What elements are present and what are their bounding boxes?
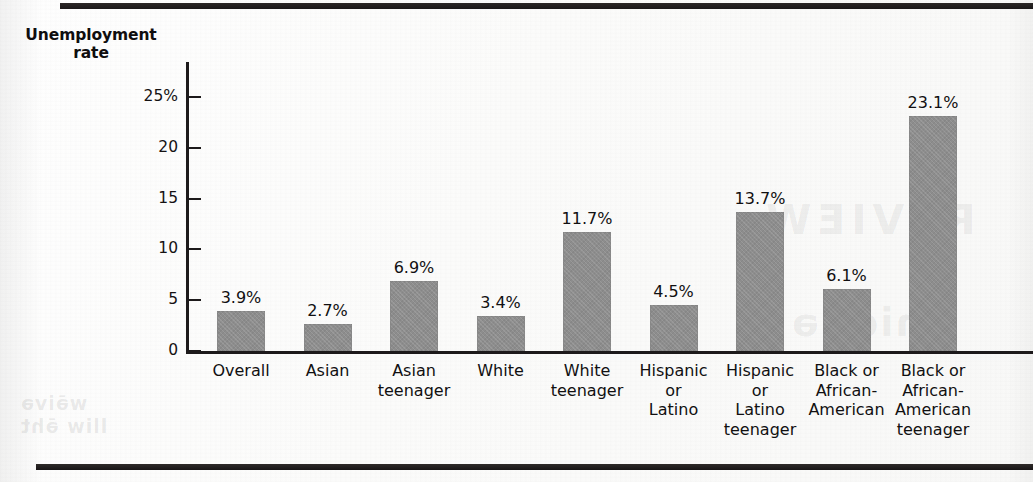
unemployment-rate-figure: REVIEW gnidnə wə̄ivə lliw ə̄ht Unemploym… bbox=[0, 0, 1033, 482]
category-label-line: or bbox=[626, 381, 722, 401]
category-label-line: White bbox=[539, 361, 635, 381]
category-label-line: teenager bbox=[539, 381, 635, 401]
x-axis-category-label: Overall bbox=[193, 361, 289, 381]
y-axis-tick bbox=[188, 96, 201, 98]
bar-value-label: 6.1% bbox=[802, 266, 892, 285]
category-label-line: teenager bbox=[885, 420, 981, 440]
bar bbox=[823, 289, 871, 351]
y-axis-tick-label: 0 bbox=[114, 341, 178, 359]
category-label-line: American bbox=[799, 400, 895, 420]
category-label-line: American bbox=[885, 400, 981, 420]
bar bbox=[477, 316, 525, 351]
bar-value-label: 23.1% bbox=[888, 93, 978, 112]
bar-value-label: 3.4% bbox=[456, 293, 546, 312]
y-axis-tick-label: 20 bbox=[114, 138, 178, 156]
bar bbox=[390, 281, 438, 351]
category-label-line: African- bbox=[799, 381, 895, 401]
x-axis-category-label: HispanicorLatinoteenager bbox=[712, 361, 808, 439]
category-label-line: African- bbox=[885, 381, 981, 401]
y-axis-tick bbox=[188, 248, 201, 250]
x-axis-category-label: HispanicorLatino bbox=[626, 361, 722, 420]
bar bbox=[736, 212, 784, 351]
bar-value-label: 11.7% bbox=[542, 209, 632, 228]
category-label-line: Asian bbox=[366, 361, 462, 381]
y-axis-line bbox=[186, 62, 189, 354]
y-axis-tick-label: 15 bbox=[114, 189, 178, 207]
y-axis-tick bbox=[188, 198, 201, 200]
y-axis-tick-label: 10 bbox=[114, 239, 178, 257]
category-label-line: Asian bbox=[280, 361, 376, 381]
bar bbox=[304, 324, 352, 351]
x-axis-category-label: White bbox=[453, 361, 549, 381]
category-label-line: or bbox=[712, 381, 808, 401]
category-label-line: Hispanic bbox=[712, 361, 808, 381]
category-label-line: White bbox=[453, 361, 549, 381]
category-label-line: teenager bbox=[366, 381, 462, 401]
bar bbox=[217, 311, 265, 351]
y-axis-tick-label: 5 bbox=[114, 290, 178, 308]
x-axis-category-label: Black orAfrican-American bbox=[799, 361, 895, 420]
category-label-line: Overall bbox=[193, 361, 289, 381]
bar-chart-plot-area: 0510152025% 3.9%2.7%6.9%3.4%11.7%4.5%13.… bbox=[0, 0, 1033, 482]
bar-value-label: 13.7% bbox=[715, 189, 805, 208]
bar-value-label: 2.7% bbox=[283, 301, 373, 320]
category-label-line: Latino bbox=[626, 400, 722, 420]
y-axis-tick-label: 25% bbox=[114, 87, 178, 105]
category-label-line: Hispanic bbox=[626, 361, 722, 381]
bar bbox=[563, 232, 611, 351]
category-label-line: Latino bbox=[712, 400, 808, 420]
x-axis-category-label: Asianteenager bbox=[366, 361, 462, 400]
category-label-line: teenager bbox=[712, 420, 808, 440]
category-label-line: Black or bbox=[885, 361, 981, 381]
category-label-line: Black or bbox=[799, 361, 895, 381]
bar-value-label: 4.5% bbox=[629, 282, 719, 301]
x-axis-category-label: Asian bbox=[280, 361, 376, 381]
bar-value-label: 6.9% bbox=[369, 258, 459, 277]
bar bbox=[650, 305, 698, 351]
x-axis-line bbox=[186, 351, 1033, 354]
y-axis-tick bbox=[188, 350, 201, 352]
y-axis-tick bbox=[188, 147, 201, 149]
x-axis-category-label: Whiteteenager bbox=[539, 361, 635, 400]
x-axis-category-label: Black orAfrican-Americanteenager bbox=[885, 361, 981, 439]
bar bbox=[909, 116, 957, 351]
bar-value-label: 3.9% bbox=[196, 288, 286, 307]
